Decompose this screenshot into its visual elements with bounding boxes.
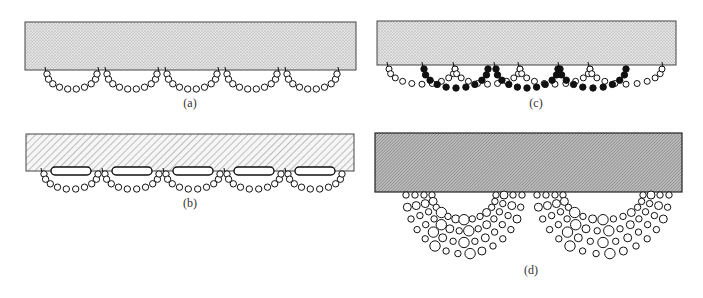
panel-a [25,22,356,92]
figure-canvas [0,0,703,298]
surface-c [377,21,676,65]
panel-c [377,21,676,91]
panel-label-b: (b) [183,196,197,211]
panel-label-c: (c) [529,96,542,111]
panel-label-a: (a) [183,96,196,111]
surface-a [25,22,356,70]
panel-label-d: (d) [524,263,538,278]
panel-b [26,134,354,192]
surface-d [375,133,682,192]
panel-d [375,133,682,259]
surface-b [26,134,354,171]
